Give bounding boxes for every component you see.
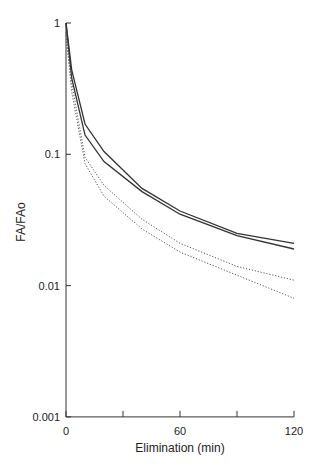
series-line-solid-lower <box>66 23 294 249</box>
x-axis-label: Elimination (min) <box>135 441 224 455</box>
y-tick-label: 0.001 <box>32 411 60 423</box>
axes: 10.10.010.001060120 <box>32 17 303 437</box>
y-axis-label: FA/FAo <box>14 202 28 242</box>
series-group <box>66 23 294 298</box>
series-line-dotted-lower <box>66 36 294 299</box>
y-tick-label: 1 <box>54 17 60 29</box>
x-tick-label: 0 <box>63 425 69 437</box>
series-line-solid-upper <box>66 23 294 243</box>
y-tick-label: 0.1 <box>45 148 60 160</box>
chart: 10.10.010.001060120 FA/FAo Elimination (… <box>0 0 318 473</box>
y-tick-label: 0.01 <box>39 280 60 292</box>
x-tick-label: 60 <box>174 425 186 437</box>
x-tick-label: 120 <box>285 425 303 437</box>
